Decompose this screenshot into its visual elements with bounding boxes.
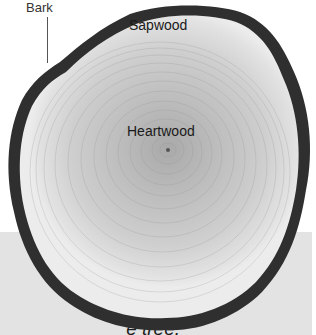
heartwood-label: Heartwood	[127, 123, 195, 139]
sapwood-label: Sapwood	[129, 17, 187, 33]
pith	[166, 148, 170, 152]
bark-leader-line	[47, 17, 48, 63]
bark-label: Bark	[26, 0, 53, 15]
